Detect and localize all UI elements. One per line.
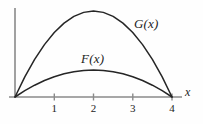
x-tick-label-3: 3 — [125, 102, 141, 114]
x-axis-label: x — [185, 85, 190, 100]
curve-f — [15, 70, 172, 97]
math-figure: G(x) F(x) x 1 2 3 4 — [0, 0, 203, 124]
curve-label-g: G(x) — [134, 16, 159, 32]
x-tick-label-4: 4 — [164, 102, 180, 114]
x-tick-label-2: 2 — [86, 102, 102, 114]
x-tick-label-1: 1 — [46, 102, 62, 114]
curve-label-f: F(x) — [81, 51, 104, 67]
